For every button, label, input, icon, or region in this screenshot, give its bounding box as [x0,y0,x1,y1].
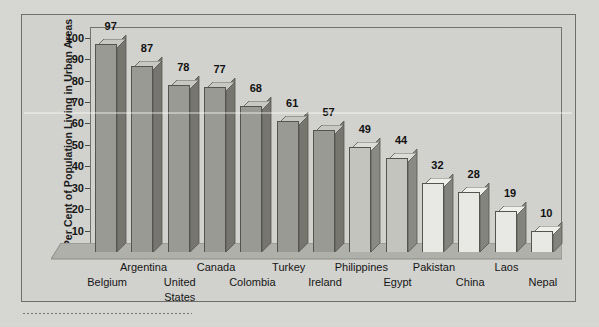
y-axis-tick-label: 90 [72,53,84,65]
bar-side-face [371,138,381,252]
y-axis-tick-label: 60 [72,117,84,129]
bar[interactable] [277,112,308,252]
y-axis-tick-mark [85,145,90,146]
y-axis-tick-label: 50 [72,139,84,151]
bar-front-face [313,130,335,252]
bar-front-face [531,231,553,252]
y-axis-tick-mark [85,231,90,232]
bar-side-face [262,97,272,252]
bar[interactable] [240,97,271,252]
bar[interactable] [495,202,526,252]
category-labels: BelgiumArgentinaUnitedStatesCanadaColomb… [22,261,577,305]
bar-value-label: 97 [91,20,131,32]
y-axis-tick-label: 30 [72,182,84,194]
bar-value-label: 19 [490,187,530,199]
y-axis-tick-mark [85,209,90,210]
bar[interactable] [204,78,235,252]
y-axis-tick-mark [85,102,90,103]
bar-value-label: 78 [163,61,203,73]
y-axis-tick-mark [85,38,90,39]
bar-value-label: 32 [417,159,457,171]
y-axis-tick-mark [85,59,90,60]
bar[interactable] [313,121,344,252]
category-label: Turkey [247,261,331,273]
bar-front-face [277,121,299,252]
bar-side-face [117,35,127,252]
bar-value-label: 49 [345,123,385,135]
category-label: Pakistan [392,261,476,273]
bar-front-face [422,183,444,252]
dotted-rule [22,312,192,315]
y-axis-tick-mark [85,81,90,82]
chart-frame: Per Cent of Population Living in Urban A… [21,14,576,302]
y-axis-tick-label: 70 [72,96,84,108]
bar[interactable] [386,149,417,252]
bar-side-face [335,121,345,252]
y-axis-tick-mark [85,123,90,124]
category-label: States [138,291,222,303]
bar-front-face [95,44,117,252]
bar[interactable] [349,138,380,252]
y-axis-tick-label: 10 [72,225,84,237]
category-label: Ireland [283,276,367,288]
bar-front-face [495,211,517,252]
bar-side-face [226,78,236,252]
bar[interactable] [422,174,453,252]
y-axis-tick-mark [85,188,90,189]
bar-side-face [190,76,200,252]
bar[interactable] [458,183,489,252]
category-label: Nepal [501,276,585,288]
bar-front-face [240,106,262,252]
bar[interactable] [131,57,162,252]
bar-value-label: 77 [200,63,240,75]
bar-front-face [168,85,190,252]
y-axis-tick-label: 80 [72,75,84,87]
bar-front-face [204,87,226,252]
y-axis-tick-mark [85,166,90,167]
category-label: Philippines [319,261,403,273]
bar-side-face [299,112,309,252]
bar-value-label: 68 [236,82,276,94]
bar-value-label: 28 [454,168,494,180]
category-label: Belgium [65,276,149,288]
bar-series: 97877877686157494432281910 [90,27,562,260]
bar-front-face [131,66,153,252]
category-label: Laos [465,261,549,273]
y-axis-tick-label: 100 [66,32,84,44]
category-label: United [138,276,222,288]
bar[interactable] [168,76,199,252]
bar-value-label: 44 [381,134,421,146]
scanned-page: Per Cent of Population Living in Urban A… [0,0,599,327]
bar[interactable] [95,35,126,252]
bar[interactable] [531,222,562,252]
y-axis-tick-label: 40 [72,160,84,172]
bar-value-label: 10 [526,207,566,219]
bar-front-face [349,147,371,252]
bar-side-face [153,57,163,252]
bar-side-face [408,149,418,252]
category-label: Colombia [210,276,294,288]
category-label: Argentina [101,261,185,273]
bar-front-face [458,192,480,252]
category-label: China [428,276,512,288]
bar-value-label: 57 [309,106,349,118]
bar-value-label: 87 [127,42,167,54]
bar-value-label: 61 [272,97,312,109]
category-label: Egypt [356,276,440,288]
bar-front-face [386,158,408,252]
category-label: Canada [174,261,258,273]
y-axis-tick-label: 20 [72,203,84,215]
